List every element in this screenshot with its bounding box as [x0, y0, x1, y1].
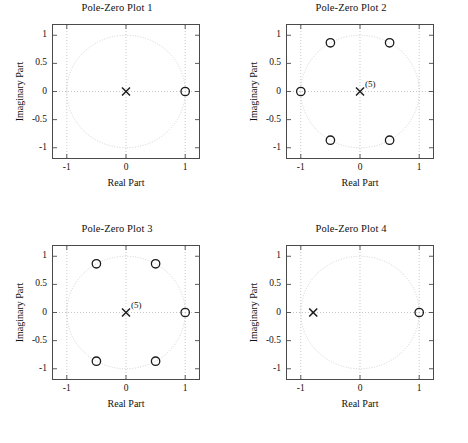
x-tick-label: 1	[165, 383, 205, 393]
pole-zero-figure: Pole-Zero Plot 1-101-1-0.500.51Real Part…	[0, 0, 468, 443]
zero-marker	[92, 260, 100, 268]
x-axis-label: Real Part	[286, 177, 434, 188]
axes	[286, 245, 434, 380]
x-tick-label: -1	[281, 383, 321, 393]
zero-marker	[326, 136, 334, 144]
x-tick-label: 0	[340, 383, 380, 393]
pole-zero-panel-2: Pole-Zero Plot 2(5)-101-1-0.500.51Real P…	[234, 0, 468, 221]
panel-title: Pole-Zero Plot 3	[0, 223, 234, 234]
pole-zero-panel-1: Pole-Zero Plot 1-101-1-0.500.51Real Part…	[0, 0, 234, 221]
x-tick-label: 0	[106, 162, 146, 172]
zero-marker	[92, 357, 100, 365]
x-tick-label: 0	[106, 383, 146, 393]
y-axis-label: Imaginary Part	[14, 24, 25, 159]
multiplicity-label: (5)	[131, 300, 142, 310]
x-axis-label: Real Part	[286, 398, 434, 409]
x-axis-label: Real Part	[52, 398, 200, 409]
x-tick-label: -1	[281, 162, 321, 172]
x-tick-label: 1	[399, 162, 439, 172]
pole-marker	[309, 309, 317, 317]
plot-area	[286, 245, 434, 380]
pole-zero-panel-4: Pole-Zero Plot 4-101-1-0.500.51Real Part…	[234, 221, 468, 442]
y-axis-label: Imaginary Part	[248, 24, 259, 159]
x-tick-label: 1	[165, 162, 205, 172]
panel-title: Pole-Zero Plot 2	[234, 2, 468, 13]
plot-area: (5)	[286, 24, 434, 159]
y-axis-label: Imaginary Part	[248, 245, 259, 380]
x-tick-label: 0	[340, 162, 380, 172]
zero-marker	[385, 136, 393, 144]
x-axis-label: Real Part	[52, 177, 200, 188]
axes	[52, 245, 200, 380]
zero-marker	[151, 357, 159, 365]
multiplicity-label: (5)	[365, 79, 376, 89]
axes	[286, 24, 434, 159]
zero-marker	[326, 39, 334, 47]
panel-title: Pole-Zero Plot 4	[234, 223, 468, 234]
plot-area: (5)	[52, 245, 200, 380]
x-tick-label: 1	[399, 383, 439, 393]
axes	[52, 24, 200, 159]
panel-title: Pole-Zero Plot 1	[0, 2, 234, 13]
y-axis-label: Imaginary Part	[14, 245, 25, 380]
x-tick-label: -1	[47, 162, 87, 172]
plot-area	[52, 24, 200, 159]
x-tick-label: -1	[47, 383, 87, 393]
pole-zero-panel-3: Pole-Zero Plot 3(5)-101-1-0.500.51Real P…	[0, 221, 234, 442]
